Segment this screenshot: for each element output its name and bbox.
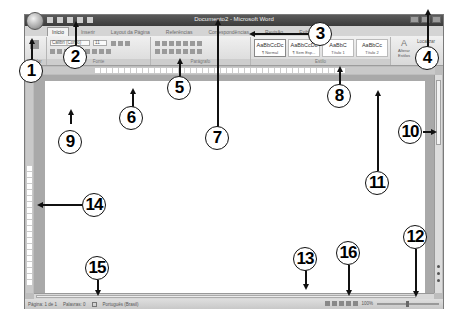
change-styles-button[interactable]: A Alterar Estilos — [395, 38, 413, 58]
find-button[interactable]: Localizar — [417, 39, 435, 44]
callout-10: 10 — [398, 120, 422, 144]
font-color-icon[interactable] — [106, 49, 111, 54]
styles-group-label: Estilo — [251, 59, 390, 65]
browse-object-icon[interactable] — [437, 272, 440, 275]
callout-16: 16 — [336, 241, 360, 265]
multilevel-icon[interactable] — [169, 41, 174, 46]
horizontal-ruler[interactable] — [35, 67, 435, 74]
tab-correspondencias[interactable]: Correspondências — [204, 28, 253, 36]
minimize-button[interactable] — [410, 16, 419, 23]
clear-format-icon[interactable] — [125, 41, 130, 46]
bold-icon[interactable] — [50, 49, 55, 54]
shrink-font-icon[interactable] — [118, 41, 123, 46]
callout-4: 4 — [415, 46, 439, 70]
line-spacing-icon[interactable] — [183, 49, 188, 54]
numbering-icon[interactable] — [162, 41, 167, 46]
callout-11: 11 — [365, 171, 389, 195]
vertical-ruler[interactable] — [26, 75, 33, 293]
callout-8: 8 — [327, 84, 351, 108]
callout-7: 7 — [205, 126, 229, 150]
vertical-scrollbar[interactable] — [434, 75, 442, 293]
paragraph-group-label: Parágrafo — [151, 59, 250, 65]
callout-9: 9 — [58, 130, 82, 154]
full-screen-icon[interactable] — [332, 301, 337, 306]
tab-inicio[interactable]: Início — [47, 27, 69, 36]
highlight-icon[interactable] — [99, 49, 104, 54]
tab-referencias[interactable]: Referências — [162, 28, 197, 36]
next-page-icon[interactable] — [437, 279, 440, 282]
shading-icon[interactable] — [190, 49, 195, 54]
ribbon-tabs: Início Inserir Layout da Página Referênc… — [25, 26, 443, 36]
language[interactable]: Português (Brasil) — [103, 302, 139, 307]
font-size-select[interactable]: 11 — [93, 40, 107, 46]
style-normal[interactable]: AaBbCcDc ¶ Normal — [254, 39, 286, 57]
ribbon: Colar Calibri (Corpo) 11 Fonte — [25, 36, 443, 66]
zoom-level[interactable]: 100% — [361, 301, 373, 306]
maximize-button[interactable] — [421, 16, 430, 23]
tab-layout[interactable]: Layout da Página — [107, 28, 154, 36]
close-button[interactable] — [432, 16, 441, 23]
pilcrow-icon[interactable] — [197, 41, 202, 46]
web-layout-icon[interactable] — [339, 301, 344, 306]
print-layout-icon[interactable] — [325, 301, 330, 306]
borders-icon[interactable] — [197, 49, 202, 54]
font-group: Calibri (Corpo) 11 Fonte — [47, 37, 151, 65]
callout-6: 6 — [119, 106, 143, 130]
outline-icon[interactable] — [346, 301, 351, 306]
window-controls — [410, 16, 441, 23]
align-right-icon[interactable] — [169, 49, 174, 54]
change-styles-icon: A — [395, 38, 413, 48]
align-center-icon[interactable] — [162, 49, 167, 54]
page-count[interactable]: Página: 1 de 1 — [28, 302, 57, 307]
callout-2: 2 — [63, 45, 87, 69]
justify-icon[interactable] — [176, 49, 181, 54]
prev-page-icon[interactable] — [437, 265, 440, 268]
decrease-indent-icon[interactable] — [176, 41, 181, 46]
window-title: Documento2 - Microsoft Word — [25, 16, 443, 22]
office-button[interactable] — [26, 12, 44, 30]
style-heading-2[interactable]: AaBbCc Título 2 — [356, 39, 388, 57]
callout-1: 1 — [19, 59, 43, 83]
increase-indent-icon[interactable] — [183, 41, 188, 46]
callout-15: 15 — [85, 256, 109, 280]
align-left-icon[interactable] — [155, 49, 160, 54]
bullets-icon[interactable] — [155, 41, 160, 46]
callout-14: 14 — [82, 193, 106, 217]
grow-font-icon[interactable] — [111, 41, 116, 46]
callout-5: 5 — [167, 76, 191, 100]
sort-icon[interactable] — [190, 41, 195, 46]
change-case-icon[interactable] — [92, 49, 97, 54]
zoom-slider-knob[interactable] — [406, 301, 409, 307]
horizontal-scroll-thumb[interactable] — [36, 295, 416, 298]
callout-12: 12 — [403, 225, 427, 249]
view-buttons — [325, 301, 358, 306]
tab-inserir[interactable]: Inserir — [77, 28, 99, 36]
callout-3: 3 — [308, 22, 332, 46]
italic-icon[interactable] — [57, 49, 62, 54]
paragraph-group: Parágrafo — [151, 37, 251, 65]
draft-icon[interactable] — [353, 301, 358, 306]
tab-revisao[interactable]: Revisão — [261, 28, 287, 36]
word-count[interactable]: Palavras: 0 — [63, 302, 86, 307]
vertical-scroll-thumb[interactable] — [436, 80, 441, 145]
proofing-icon[interactable] — [92, 302, 97, 307]
callout-13: 13 — [293, 247, 317, 271]
title-bar: Documento2 - Microsoft Word — [25, 15, 443, 26]
zoom-slider[interactable] — [377, 303, 439, 305]
